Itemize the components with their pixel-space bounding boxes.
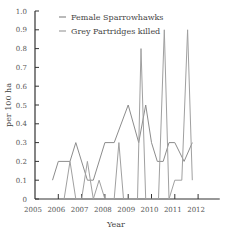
series-line-0 [53, 105, 193, 180]
x-tick-label: 2005 [24, 206, 42, 214]
y-tick-label: 0.8 [16, 45, 27, 53]
legend-label: Grey Partridges killed [71, 27, 160, 36]
line-chart: 00.10.20.30.40.50.60.70.80.91.0 20052006… [0, 0, 230, 234]
y-tick-label: 1.0 [16, 8, 27, 16]
x-tick-label: 2010 [141, 206, 159, 214]
y-tick-label: 0.6 [16, 83, 28, 91]
y-axis-title: per 100 ha [4, 83, 13, 127]
y-axis: 00.10.20.30.40.50.60.70.80.91.0 [16, 8, 39, 204]
y-tick-label: 0 [23, 196, 27, 204]
y-tick-label: 0.3 [16, 139, 27, 147]
y-tick-label: 0.1 [16, 177, 27, 185]
x-tick-label: 2006 [47, 206, 65, 214]
x-tick-label: 2009 [117, 206, 135, 214]
y-tick-label: 0.7 [16, 64, 27, 72]
legend: Female SparrowhawksGrey Partridges kille… [59, 13, 163, 36]
x-tick-label: 2008 [94, 206, 112, 214]
x-axis: 20052006200720082009201020112012 [24, 194, 220, 214]
y-tick-label: 0.5 [16, 102, 27, 110]
x-tick-label: 2007 [71, 206, 89, 214]
x-tick-label: 2011 [164, 206, 182, 214]
y-tick-label: 0.4 [16, 120, 28, 128]
x-axis-title: Year [106, 220, 125, 229]
y-tick-label: 0.9 [16, 26, 27, 34]
legend-label: Female Sparrowhawks [71, 13, 163, 22]
y-tick-label: 0.2 [16, 158, 27, 166]
series-line-1 [64, 30, 192, 199]
series-layer [53, 30, 193, 199]
x-tick-label: 2012 [187, 206, 205, 214]
